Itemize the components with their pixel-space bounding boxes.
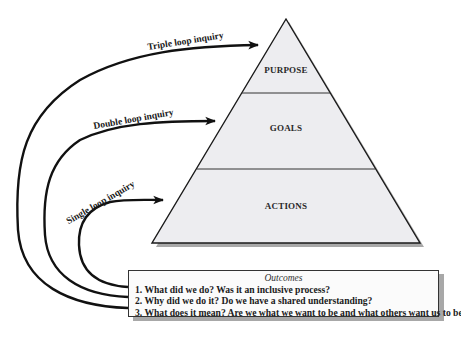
outcome-item-2: 2. Why did we do it? Do we have a shared… (135, 295, 432, 306)
single-loop-label: Single loop inquiry (65, 179, 137, 226)
layer-label-actions: ACTIONS (265, 201, 307, 211)
double-loop-label: Double loop inquiry (93, 107, 175, 131)
layer-label-purpose: PURPOSE (264, 65, 307, 75)
outcome-item-3: 3. What does it mean? Are we what we wan… (135, 307, 432, 318)
outcomes-box: Outcomes 1. What did we do? Was it an in… (128, 270, 439, 317)
layer-label-goals: GOALS (270, 123, 303, 133)
outcomes-title: Outcomes (135, 273, 432, 284)
outcome-item-1: 1. What did we do? Was it an inclusive p… (135, 284, 432, 295)
